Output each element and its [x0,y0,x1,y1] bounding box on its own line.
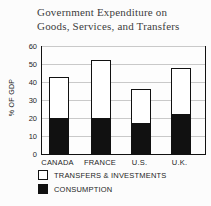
x-axis-labels: CANADAFRANCEU.S.U.K. [41,158,204,168]
bar-us [131,89,151,154]
legend-swatch-0 [38,170,48,180]
bar-segment-consumption [49,118,69,154]
grid-line-50 [42,64,205,65]
legend-label-0: TRANSFERS & INVESTMENTS [54,171,167,180]
chart-title-line-2: Goods, Services, and Transfers [37,19,207,33]
x-label-uk: U.K. [154,158,206,167]
grid-line-60 [42,46,205,47]
y-tick-50: 50 [3,60,37,69]
legend-swatch-1 [38,184,48,194]
bar-segment-consumption [91,118,111,154]
legend-label-1: CONSUMPTION [54,185,112,194]
y-tick-40: 40 [3,78,37,87]
figure-government-expenditure: Government Expenditure on Goods, Service… [0,0,211,206]
bar-segment-consumption [131,123,151,154]
y-tick-20: 20 [3,114,37,123]
legend-item-0: TRANSFERS & INVESTMENTS [38,170,167,180]
bar-france [91,60,111,154]
bar-canada [49,77,69,154]
y-tick-60: 60 [3,42,37,51]
bar-uk [171,68,191,154]
legend: TRANSFERS & INVESTMENTSCONSUMPTION [38,170,167,198]
chart-title: Government Expenditure on Goods, Service… [37,5,207,33]
y-tick-30: 30 [3,96,37,105]
legend-item-1: CONSUMPTION [38,184,167,194]
plot-area [41,46,206,155]
chart-title-line-1: Government Expenditure on [37,5,207,19]
bar-segment-consumption [171,114,191,154]
y-tick-10: 10 [3,132,37,141]
y-axis-ticks: 0102030405060 [3,46,37,154]
